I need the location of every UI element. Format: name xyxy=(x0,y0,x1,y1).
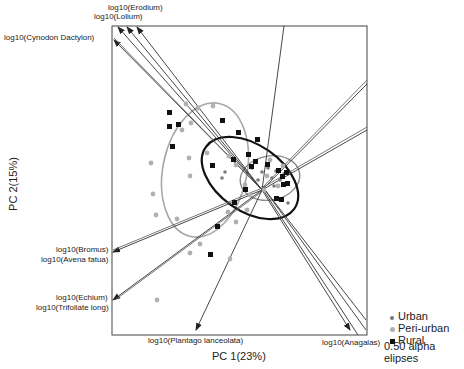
legend-item-urban: Urban xyxy=(386,310,464,322)
legend-note: 0.50 alpha elipses xyxy=(384,346,464,358)
y-axis-title: PC 2(15%) xyxy=(7,157,19,211)
plot-area xyxy=(113,26,367,335)
legend-item-periurban: Peri-urban xyxy=(386,322,464,334)
loading-label-anagalas: log10(Anagalas) xyxy=(322,338,380,347)
loading-label-trifoliate: log10(Trifoliate long) xyxy=(36,303,109,312)
loading-label-avena: log10(Avena fatua) xyxy=(41,255,108,264)
loading-label-echium: log10(Echium) xyxy=(56,293,108,302)
periurban-marker-icon xyxy=(390,327,395,332)
urban-marker-icon xyxy=(390,316,394,320)
loading-label-cynodon: log10(Cynodon Dactylon) xyxy=(4,33,94,42)
x-axis-title: PC 1(23%) xyxy=(212,350,266,362)
loading-label-erodium: log10(Erodium) xyxy=(108,3,163,12)
legend: Urban Peri-urban Rural 0.50 alpha elipse… xyxy=(386,310,464,358)
loading-label-plantago: log10(Plantago lanceolata) xyxy=(148,336,243,345)
loading-label-lolium: log10(Lolium) xyxy=(94,12,142,21)
loading-label-bromus: log10(Bromus) xyxy=(56,245,108,254)
